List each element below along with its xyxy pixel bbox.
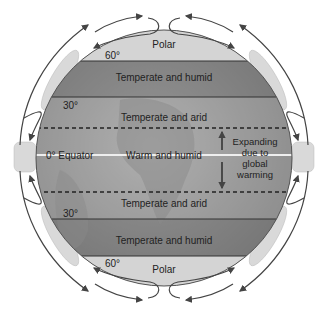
zone-label-temperate-arid-south: Temperate and arid bbox=[121, 198, 207, 209]
zone-label-polar-north: Polar bbox=[152, 39, 175, 50]
atmospheric-circulation-diagram: Polar Temperate and humid Temperate and … bbox=[0, 0, 328, 316]
annotation-line: Expanding bbox=[226, 136, 284, 147]
latitude-label-30n: 30° bbox=[63, 100, 78, 111]
annotation-line: global bbox=[226, 158, 284, 169]
zone-label-temperate-humid-south: Temperate and humid bbox=[116, 235, 213, 246]
annotation-line: due to bbox=[226, 147, 284, 158]
zone-label-polar-south: Polar bbox=[152, 264, 175, 275]
zone-label-temperate-humid-north: Temperate and humid bbox=[116, 72, 213, 83]
zone-label-temperate-arid-north: Temperate and arid bbox=[121, 112, 207, 123]
latitude-label-60n: 60° bbox=[105, 50, 120, 61]
zone-label-warm-humid: Warm and humid bbox=[126, 150, 202, 161]
expansion-annotation: Expanding due to global warming bbox=[226, 136, 284, 180]
latitude-label-30s: 30° bbox=[63, 208, 78, 219]
latitude-label-equator: 0° Equator bbox=[46, 150, 93, 161]
latitude-label-60s: 60° bbox=[105, 258, 120, 269]
annotation-line: warming bbox=[226, 169, 284, 180]
